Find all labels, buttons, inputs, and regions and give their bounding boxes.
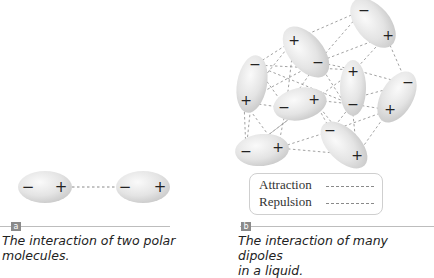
positive-pole-icon: + — [384, 101, 396, 117]
molecule-b8: − + — [312, 113, 376, 177]
positive-pole-icon: + — [351, 147, 363, 163]
negative-pole-icon: − — [358, 2, 370, 18]
molecule-b2: + − — [274, 18, 339, 86]
legend-attraction-label: Attraction — [259, 177, 312, 193]
negative-pole-icon: − — [249, 56, 261, 72]
molecule-b5: + − — [340, 60, 366, 116]
panel-b-molecules: − + + − − + − + + − − + − — [232, 0, 425, 177]
legend-repulsion-label: Repulsion — [259, 194, 312, 210]
molecule-b1: − + — [341, 0, 404, 56]
positive-pole-icon: + — [308, 91, 320, 107]
molecule-b7: − + — [234, 132, 291, 169]
legend: Attraction Repulsion — [249, 173, 383, 215]
positive-pole-icon: + — [272, 139, 284, 155]
positive-pole-icon: + — [288, 32, 300, 48]
legend-attraction-line — [326, 186, 374, 187]
molecule-b6: − + — [369, 65, 425, 129]
negative-pole-icon: − — [22, 178, 35, 196]
molecule-a1: − + — [18, 171, 72, 203]
panel-a-diagram: − + − + — [18, 171, 170, 203]
negative-pole-icon: − — [324, 122, 336, 138]
panel-b-label: b — [241, 222, 251, 231]
molecule-b3: − + — [232, 53, 272, 115]
negative-pole-icon: − — [278, 99, 290, 115]
positive-pole-icon: + — [347, 63, 359, 79]
positive-pole-icon: + — [382, 27, 394, 43]
negative-pole-icon: − — [240, 143, 252, 159]
panel-b-caption: The interaction of many dipoles in a liq… — [238, 233, 434, 278]
positive-pole-icon: + — [154, 178, 167, 196]
negative-pole-icon: − — [347, 96, 359, 112]
negative-pole-icon: − — [312, 54, 324, 70]
panel-a-label: a — [11, 222, 21, 231]
negative-pole-icon: − — [119, 178, 132, 196]
positive-pole-icon: + — [240, 92, 252, 108]
molecule-b4: − + — [270, 83, 329, 126]
panel-a-caption: The interaction of two polar molecules. — [2, 233, 175, 263]
legend-repulsion-line — [326, 203, 374, 204]
negative-pole-icon: − — [402, 74, 414, 90]
panel-a-rule — [0, 226, 170, 227]
molecule-a2: − + — [116, 171, 170, 203]
positive-pole-icon: + — [55, 178, 68, 196]
panel-b-rule — [240, 226, 434, 227]
